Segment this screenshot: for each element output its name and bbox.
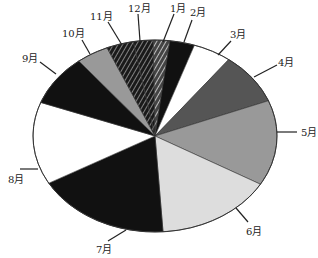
slice-label: 6月 bbox=[246, 226, 262, 237]
leader-line bbox=[254, 65, 277, 77]
leader-line bbox=[236, 208, 248, 222]
slice-label: 4月 bbox=[278, 57, 294, 68]
leader-line bbox=[40, 62, 56, 74]
leader-line bbox=[184, 20, 192, 42]
slice-label: 5月 bbox=[301, 127, 317, 138]
leader-line bbox=[218, 41, 231, 55]
slice-label: 9月 bbox=[22, 53, 38, 64]
slice-label: 1月 bbox=[170, 3, 186, 14]
slice-label: 8月 bbox=[8, 174, 24, 185]
slice-label: 2月 bbox=[190, 7, 206, 18]
leader-line bbox=[82, 40, 90, 54]
leader-line bbox=[163, 14, 174, 42]
pie-chart: 1月2月3月4月5月6月7月8月9月10月11月12月 bbox=[0, 0, 318, 258]
slice-label: 10月 bbox=[62, 28, 85, 39]
slice-label: 12月 bbox=[128, 3, 151, 14]
slice-label: 3月 bbox=[230, 29, 246, 40]
leader-line bbox=[108, 230, 126, 241]
leader-line bbox=[138, 14, 140, 41]
leader-line bbox=[108, 22, 122, 45]
slice-label: 7月 bbox=[96, 244, 112, 255]
pie-slices bbox=[33, 40, 277, 232]
slice-label: 11月 bbox=[90, 11, 113, 22]
